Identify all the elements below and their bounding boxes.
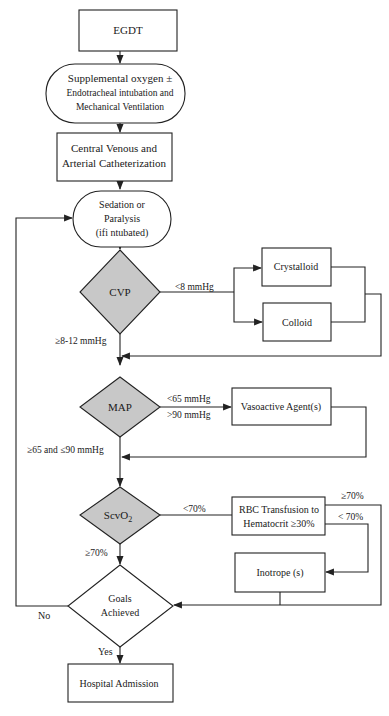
node-crystalloid: Crystalloid — [262, 248, 331, 286]
scvo2-sub: 2 — [128, 515, 132, 524]
scvo2-main: ScvO — [104, 509, 129, 521]
node-oxygen: Supplemental oxygen ± Endotracheal intub… — [46, 64, 185, 123]
colloid-label: Colloid — [282, 317, 312, 328]
vasoactive-label: Vasoactive Agent(s) — [241, 401, 321, 413]
goals-line1: Goals — [108, 593, 131, 604]
node-hospital: Hospital Admission — [68, 664, 173, 702]
node-scvo2: ScvO2 — [80, 487, 160, 544]
label-goals-no: No — [38, 610, 50, 621]
catheter-line1: Central Venous and — [71, 142, 157, 154]
edge-crystalloid-merge — [331, 267, 365, 322]
node-map: MAP — [80, 377, 160, 437]
label-scvo2-ok: ≥70% — [85, 548, 108, 558]
label-map-ok: ≥65 and ≤90 mmHg — [27, 445, 104, 455]
label-scvo2-low: <70% — [183, 504, 206, 514]
node-cvp: CVP — [80, 250, 160, 334]
edge-fluid-return — [122, 294, 381, 356]
sedation-line1: Sedation or — [99, 199, 145, 210]
label-goals-yes: Yes — [98, 646, 113, 657]
label-map-high: >90 mmHg — [167, 410, 211, 420]
cvp-label: CVP — [109, 286, 130, 298]
egdt-label: EGDT — [113, 24, 143, 36]
label-cvp-ok: ≥8-12 mmHg — [55, 336, 107, 346]
node-colloid: Colloid — [263, 303, 331, 341]
edge-goals-no — [16, 218, 72, 606]
node-sedation: Sedation or Paralysis (ifi ntubated) — [73, 191, 171, 247]
edge-branch-crystalloid — [234, 268, 261, 292]
node-egdt: EGDT — [79, 10, 177, 51]
sedation-line3: (ifi ntubated) — [96, 227, 148, 239]
label-rbc-ok: ≥70% — [341, 491, 364, 501]
oxygen-line3: Mechanical Ventilation — [76, 102, 164, 112]
inotrope-label: Inotrope (s) — [257, 567, 304, 579]
map-label: MAP — [108, 401, 132, 413]
egdt-flowchart: EGDT Supplemental oxygen ± Endotracheal … — [0, 0, 389, 716]
node-vasoactive: Vasoactive Agent(s) — [232, 388, 331, 425]
catheter-line2: Arterial Catheterization — [62, 157, 167, 169]
sedation-line2: Paralysis — [104, 213, 140, 224]
node-inotrope: Inotrope (s) — [235, 553, 325, 592]
rbc-line1: RBC Transfusion to — [239, 504, 319, 515]
crystalloid-label: Crystalloid — [274, 261, 318, 272]
label-rbc-low: < 70% — [338, 512, 363, 522]
goals-line2: Achieved — [101, 607, 139, 618]
label-cvp-low: <8 mmHg — [175, 282, 214, 292]
oxygen-line2: Endotracheal intubation and — [66, 88, 173, 98]
rbc-line2: Hematocrit ≥30% — [243, 518, 314, 529]
node-goals: Goals Achieved — [68, 565, 173, 647]
label-map-low: <65 mmHg — [167, 394, 211, 404]
oxygen-line1: Supplemental oxygen ± — [68, 72, 172, 84]
hospital-label: Hospital Admission — [79, 678, 158, 689]
node-rbc: RBC Transfusion to Hematocrit ≥30% — [232, 497, 325, 535]
edge-branch-colloid — [234, 292, 262, 322]
node-catheter: Central Venous and Arterial Catheterizat… — [57, 133, 172, 181]
edge-rbc-inotrope — [325, 524, 368, 572]
